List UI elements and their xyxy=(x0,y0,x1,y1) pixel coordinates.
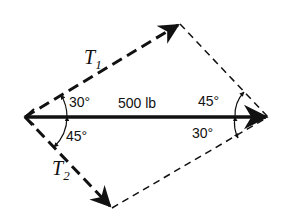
angle-right-lower: 30° xyxy=(192,125,213,141)
angle-right-upper: 45° xyxy=(198,93,219,109)
angle-arc-left-upper xyxy=(61,95,67,117)
force-diagram: T1 T2 500 lb 30° 45° 45° 30° xyxy=(0,0,290,216)
resultant-label: 500 lb xyxy=(118,95,156,111)
angle-left-lower: 45° xyxy=(66,128,87,144)
angle-left-upper: 30° xyxy=(69,94,90,110)
t1-label: T1 xyxy=(84,46,102,72)
angle-arc-right-upper xyxy=(235,92,244,117)
dashed-edge-top-right xyxy=(180,24,268,117)
dashed-edge-bottom-right xyxy=(112,117,268,208)
